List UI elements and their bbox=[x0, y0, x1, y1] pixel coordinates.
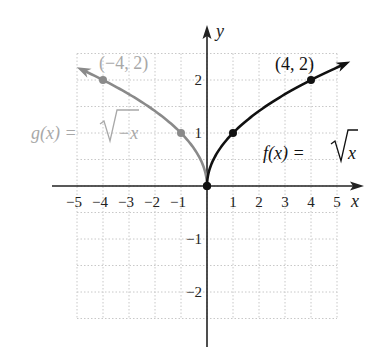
point-g bbox=[99, 76, 107, 84]
x-tick-label: −1 bbox=[170, 194, 186, 210]
label-f-lhs: f(x) = bbox=[263, 143, 305, 164]
point-f bbox=[307, 76, 315, 84]
x-tick-label: 2 bbox=[255, 194, 263, 210]
y-tick-label: 1 bbox=[195, 125, 203, 141]
x-tick-label: 3 bbox=[281, 194, 289, 210]
label-g: g(x) = −x bbox=[31, 110, 139, 144]
svg-text:f(x) =: f(x) = bbox=[263, 143, 305, 164]
y-tick-label: 2 bbox=[195, 72, 203, 88]
point-label-f: (4, 2) bbox=[275, 54, 314, 75]
svg-text:g(x) =: g(x) = bbox=[31, 123, 77, 144]
label-g-lhs: g(x) = bbox=[31, 123, 77, 144]
point-label-g: (−4, 2) bbox=[99, 53, 148, 74]
y-tick-label: −2 bbox=[186, 284, 202, 300]
y-axis-label: y bbox=[214, 21, 224, 41]
x-tick-label: −2 bbox=[144, 194, 160, 210]
x-tick-labels: −5−4−3−2−112345 bbox=[66, 194, 341, 210]
curve-g bbox=[77, 67, 207, 186]
point-g bbox=[177, 129, 185, 137]
x-tick-label: 1 bbox=[229, 194, 237, 210]
point-f bbox=[203, 182, 211, 190]
x-tick-label: 4 bbox=[307, 194, 315, 210]
x-axis-label: x bbox=[350, 191, 359, 211]
label-g-radicand: −x bbox=[118, 123, 138, 143]
y-tick-label: −1 bbox=[186, 231, 202, 247]
label-f-radicand: x bbox=[347, 143, 356, 163]
x-tick-label: −3 bbox=[118, 194, 134, 210]
x-tick-label: −4 bbox=[92, 194, 108, 210]
x-tick-label: −5 bbox=[66, 194, 82, 210]
function-graph-figure: x y −5−4−3−2−112345 21−1−2 (−4, 2) (4, 2… bbox=[0, 0, 386, 358]
x-tick-label: 5 bbox=[333, 194, 341, 210]
point-f bbox=[229, 129, 237, 137]
